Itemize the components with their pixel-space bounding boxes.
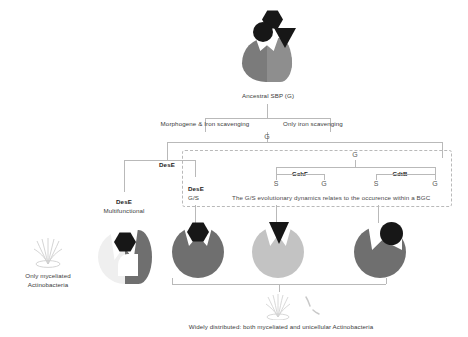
connector-dese-inside-horizontal bbox=[167, 160, 196, 161]
circle-ligand-icon bbox=[253, 22, 273, 42]
footnote-left-line2: Actinobacteria bbox=[28, 281, 69, 289]
bacteria-rod-icon bbox=[300, 294, 324, 318]
connector-cdtb-stem bbox=[435, 167, 436, 174]
connector-g-horizontal bbox=[167, 142, 442, 143]
mycelium-icon bbox=[258, 292, 298, 320]
connector-bracket-right bbox=[386, 278, 387, 284]
connector-dese-left-down bbox=[124, 160, 125, 192]
connector-root-horizontal bbox=[205, 118, 330, 119]
connector-glyph2-stem bbox=[276, 205, 277, 223]
dese-inside-state: G/S bbox=[188, 194, 199, 202]
dese-tree-leaf-label: DesE bbox=[159, 161, 175, 169]
footnote-left-line1: Only myceliated bbox=[25, 272, 71, 280]
dese-gs-glyph bbox=[170, 222, 226, 280]
connector-dese-left-horizontal bbox=[124, 160, 168, 161]
dese-multifunctional-glyph bbox=[96, 226, 154, 292]
footnote-bottom: Widely distributed: both myceliated and … bbox=[189, 323, 373, 331]
connector-dese-inside-stem bbox=[195, 160, 196, 177]
connector-cdtb-horizontal bbox=[376, 174, 435, 175]
cdtb-state-s: S bbox=[374, 180, 379, 187]
sub-g-label: G bbox=[352, 151, 357, 158]
connector-cchf-horizontal bbox=[276, 174, 324, 175]
root-g-label: G bbox=[264, 133, 269, 140]
connector-bracket-down bbox=[279, 284, 280, 292]
connector-subg-horizontal bbox=[276, 167, 435, 168]
dese-left-subtitle: Multifunctional bbox=[103, 207, 144, 215]
connector-bracket-left bbox=[172, 278, 173, 284]
connector-glyph3-stem bbox=[378, 205, 379, 223]
mycelium-icon bbox=[26, 236, 70, 268]
cchf-state-g: G bbox=[321, 180, 326, 187]
connector-cchf-stem bbox=[276, 167, 277, 174]
cchf-glyph bbox=[250, 222, 306, 280]
connector-glyph1-stem bbox=[195, 205, 196, 223]
connector-root-stem bbox=[267, 104, 268, 118]
cdtb-state-g: G bbox=[432, 180, 437, 187]
dese-left-label: DesE bbox=[116, 198, 132, 206]
dese-inner-white bbox=[118, 254, 138, 276]
cchf-state-s: S bbox=[274, 180, 279, 187]
branch-label-right: Only iron scavenging bbox=[283, 120, 343, 128]
ancestral-sbp-glyph bbox=[236, 10, 298, 82]
branch-label-left: Morphogene & Iron scavenging bbox=[161, 120, 250, 128]
ancestral-sbp-label: Ancestral SBP (G) bbox=[242, 92, 294, 100]
cdtb-glyph bbox=[352, 222, 408, 280]
dese-inside-label: DesE bbox=[188, 185, 204, 193]
connector-g-stem-left bbox=[167, 142, 168, 160]
connector-subg-stem bbox=[355, 160, 356, 167]
circle-ligand-icon bbox=[380, 222, 403, 245]
bgc-note-text: The G/S evolutionary dynamics relates to… bbox=[232, 194, 430, 202]
